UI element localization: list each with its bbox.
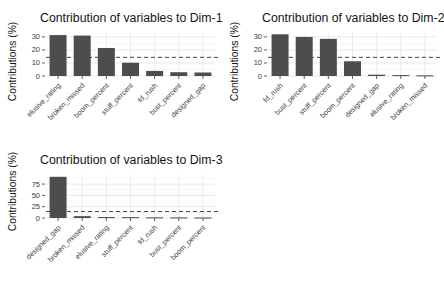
svg-text:0: 0 <box>258 72 262 81</box>
svg-text:0: 0 <box>36 72 40 81</box>
dim2-y-axis-label: Contributions (%) <box>229 0 242 127</box>
svg-text:25: 25 <box>32 202 40 211</box>
svg-text:0: 0 <box>36 214 40 223</box>
dim3-chart-title: Contribution of variables to Dim-3 <box>40 154 222 168</box>
dim2-chart-title: Contribution of variables to Dim-2 <box>262 12 444 26</box>
svg-text:50: 50 <box>32 191 40 200</box>
panel-dim2: 0102030fd_rushbust_percentstuff_percentb… <box>222 0 444 145</box>
dim3-y-axis-label: Contributions (%) <box>7 127 20 257</box>
svg-text:75: 75 <box>32 180 40 189</box>
panel-dim3: 0255075designed_gapbroken_missedelusive_… <box>0 145 222 290</box>
svg-text:20: 20 <box>32 45 40 54</box>
svg-text:fd_rush: fd_rush <box>136 81 159 104</box>
svg-text:10: 10 <box>254 58 262 67</box>
svg-text:30: 30 <box>32 32 40 41</box>
svg-text:20: 20 <box>254 45 262 54</box>
dim1-y-axis-label: Contributions (%) <box>7 0 20 127</box>
panel-dim1: 0102030elusive_ratingbroken_missedboom_p… <box>0 0 222 145</box>
dim1-chart-title: Contribution of variables to Dim-1 <box>40 12 222 26</box>
contribution-plots-grid: 0102030elusive_ratingbroken_missedboom_p… <box>0 0 444 290</box>
svg-text:fd_rush: fd_rush <box>136 223 159 246</box>
svg-text:10: 10 <box>32 58 40 67</box>
svg-text:fd_rush: fd_rush <box>261 81 284 104</box>
svg-text:30: 30 <box>254 32 262 41</box>
